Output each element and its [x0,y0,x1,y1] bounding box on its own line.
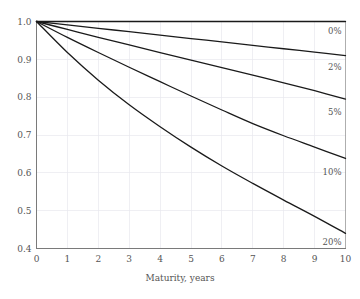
x-tick-label: 1 [65,254,71,264]
axis-titles: Maturity, years [145,273,214,283]
series-label-0pct: 0% [328,26,342,36]
series-label-2pct: 2% [328,62,342,72]
x-tick-label: 2 [95,254,101,264]
x-tick-label: 4 [157,254,163,264]
x-tick-label: 5 [188,254,194,264]
y-tick-label: 0.6 [17,168,32,178]
series-label-20pct: 20% [323,237,342,247]
y-tick-label: 0.9 [17,55,32,65]
y-tick-label: 0.5 [17,206,32,216]
y-tick-labels: 0.40.50.60.70.80.91.0 [17,17,32,254]
x-tick-label: 8 [281,254,287,264]
y-tick-label: 0.4 [17,244,32,254]
x-axis-title: Maturity, years [145,273,214,283]
x-tick-label: 3 [126,254,132,264]
x-tick-labels: 012345678910 [34,254,352,264]
x-tick-label: 10 [340,254,352,264]
x-tick-label: 7 [250,254,256,264]
discount-factor-chart: 012345678910 0.40.50.60.70.80.91.0 0%2%5… [0,0,360,299]
series-label-10pct: 10% [323,167,342,177]
series-label-5pct: 5% [328,107,342,117]
gridlines [37,22,346,249]
chart-plot-area: 012345678910 0.40.50.60.70.80.91.0 0%2%5… [0,0,360,299]
x-tick-label: 6 [219,254,225,264]
x-tick-label: 0 [34,254,40,264]
y-tick-label: 1.0 [17,17,32,27]
y-tick-label: 0.8 [17,92,32,102]
x-tick-label: 9 [312,254,318,264]
y-tick-label: 0.7 [17,130,32,140]
